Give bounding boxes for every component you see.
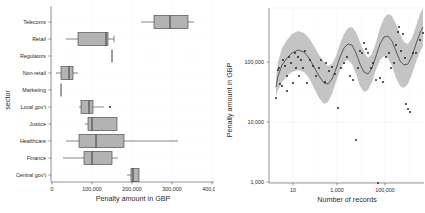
boxplot-box-finance: [63, 152, 118, 165]
boxplot-gridlines: [52, 5, 213, 180]
xtick-0: 0: [51, 186, 54, 192]
boxplot-svg: Telecoms Retail Regulators Non-retail Ma…: [0, 0, 215, 213]
ytick-retail: Retail: [32, 36, 46, 42]
scatter-y-tick-labels: 100,000 10,000 1,000: [245, 59, 265, 185]
ytick-1000: 1,000: [251, 179, 265, 185]
boxplot-y-tick-labels: Telecoms Retail Regulators Non-retail Ma…: [16, 19, 47, 178]
boxplot-box-central-govt: [127, 169, 139, 182]
ytick-local-govt: Local gov't: [20, 104, 46, 110]
xtick-10: 10: [290, 187, 296, 193]
ytick-100000: 100,000: [245, 59, 265, 65]
xtick-100000: 100,000: [82, 186, 102, 192]
figure-two-panel-chart: Telecoms Retail Regulators Non-retail Ma…: [0, 0, 425, 213]
boxplot-panel: Telecoms Retail Regulators Non-retail Ma…: [0, 0, 215, 213]
ytick-justice: Justice: [29, 121, 46, 127]
ytick-healthcare: Healthcare: [20, 138, 46, 144]
boxplot-box-telecoms: [141, 16, 194, 29]
boxplot-box-retail: [66, 33, 114, 46]
ytick-marketing: Marketing: [22, 87, 46, 93]
boxplot-x-axis-title: Penalty amount in GBP: [96, 194, 171, 203]
scatter-svg: 100,000 10,000 1,000 10 1,000 100,000 Nu…: [210, 0, 425, 213]
scatter-x-axis-title: Number of records: [317, 195, 377, 204]
scatter-x-tick-labels: 10 1,000 100,000: [290, 187, 395, 193]
ytick-finance: Finance: [27, 155, 46, 161]
loess-confidence-band: [276, 8, 423, 104]
boxplot-y-axis: [49, 6, 52, 182]
boxplot-x-axis: [51, 182, 214, 185]
ytick-regulators: Regulators: [20, 53, 46, 59]
boxplot-box-healthcare: [66, 135, 178, 148]
scatter-y-axis: [267, 8, 270, 183]
scatter-x-axis: [269, 183, 424, 186]
ytick-telecoms: Telecoms: [23, 19, 46, 25]
xtick-1000: 1,000: [330, 187, 344, 193]
ytick-non-retail: Non-retail: [23, 70, 46, 76]
scatter-y-axis-title: Penalty amount in GBP: [225, 62, 234, 137]
boxplot-box-justice: [85, 118, 117, 131]
ytick-central-govt: Central gov't: [16, 172, 47, 178]
boxplot-y-axis-title: sector: [3, 90, 12, 110]
xtick-100000: 100,000: [375, 187, 395, 193]
xtick-300000: 300,000: [162, 186, 182, 192]
ytick-10000: 10,000: [248, 119, 265, 125]
scatter-panel: 100,000 10,000 1,000 10 1,000 100,000 Nu…: [210, 0, 425, 213]
boxplot-box-non-retail: [56, 67, 78, 80]
xtick-200000: 200,000: [122, 186, 142, 192]
boxplot-x-tick-labels: 0 100,000 200,000 300,000 400,000: [51, 186, 216, 192]
